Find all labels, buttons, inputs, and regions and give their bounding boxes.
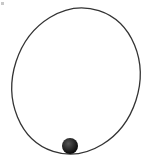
orbit-ellipse <box>0 0 157 168</box>
orbit-diagram <box>0 0 157 168</box>
ball <box>62 138 78 154</box>
